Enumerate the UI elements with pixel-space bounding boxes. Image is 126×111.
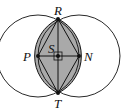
point-n <box>77 54 81 58</box>
label-s: S <box>48 41 55 56</box>
label-n: N <box>83 49 94 64</box>
label-r: R <box>53 3 62 18</box>
point-s <box>56 54 60 58</box>
label-t: T <box>54 96 62 111</box>
geometry-diagram: R T P N S <box>0 0 126 111</box>
label-p: P <box>22 49 31 64</box>
diagram-canvas: R T P N S <box>0 0 126 111</box>
point-p <box>36 54 40 58</box>
point-t <box>56 91 60 95</box>
